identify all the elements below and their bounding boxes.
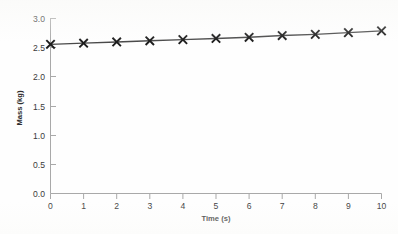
y-tick-label: 1.5 bbox=[33, 102, 45, 112]
y-tick-label: 0.0 bbox=[33, 189, 45, 199]
x-tick-label: 1 bbox=[81, 201, 86, 211]
x-tick-label: 7 bbox=[280, 201, 285, 211]
y-tick-label: 0.5 bbox=[33, 160, 45, 170]
x-tick-label: 4 bbox=[181, 201, 186, 211]
y-axis-title: Mass (kg) bbox=[15, 90, 24, 125]
y-tick-label: 2.5 bbox=[33, 43, 45, 53]
x-tick-label: 9 bbox=[346, 201, 351, 211]
chart-container: 0.0 0.5 1.0 1.5 2.0 2.5 3.0 0 1 2 bbox=[0, 0, 398, 234]
x-tick-label: 3 bbox=[147, 201, 152, 211]
x-tick-label: 0 bbox=[48, 201, 53, 211]
x-tick-label: 5 bbox=[214, 201, 219, 211]
y-tick-label: 3.0 bbox=[33, 14, 45, 24]
x-axis-ticks bbox=[51, 194, 382, 200]
x-axis-tick-labels: 0 1 2 3 4 5 6 7 8 9 10 bbox=[48, 201, 386, 211]
line-chart-plot: 0.0 0.5 1.0 1.5 2.0 2.5 3.0 0 1 2 bbox=[0, 0, 398, 234]
series-markers bbox=[46, 27, 385, 49]
y-tick-label: 1.0 bbox=[33, 131, 45, 141]
y-tick-label: 2.0 bbox=[33, 72, 45, 82]
x-tick-label: 6 bbox=[247, 201, 252, 211]
y-axis-tick-labels: 0.0 0.5 1.0 1.5 2.0 2.5 3.0 bbox=[33, 14, 45, 199]
x-tick-label: 8 bbox=[313, 201, 318, 211]
x-tick-label: 10 bbox=[377, 201, 387, 211]
data-series-mass bbox=[46, 27, 385, 49]
x-axis-title: Time (s) bbox=[202, 214, 231, 223]
x-tick-label: 2 bbox=[114, 201, 119, 211]
